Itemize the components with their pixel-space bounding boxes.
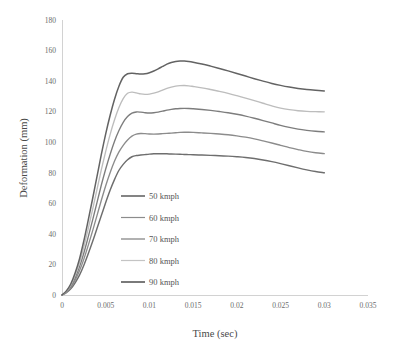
legend-label: 60 kmph — [149, 213, 180, 223]
y-tick-label: 20 — [49, 260, 57, 269]
y-tick-label: 160 — [45, 46, 57, 55]
y-tick-label: 60 — [49, 199, 57, 208]
x-tick-label: 0.03 — [318, 301, 331, 310]
x-tick-label: 0.015 — [185, 301, 202, 310]
x-tick-label: 0 — [60, 301, 64, 310]
chart-canvas: 020406080100120140160180 00.0050.010.015… — [0, 0, 400, 349]
legend-label: 80 kmph — [149, 256, 180, 266]
legend-label: 70 kmph — [149, 234, 180, 244]
x-tick-label: 0.035 — [360, 301, 377, 310]
series-lines — [62, 61, 324, 295]
y-tick-label: 180 — [45, 16, 57, 25]
legend-label: 90 kmph — [149, 277, 180, 287]
legend-label: 50 kmph — [149, 191, 180, 201]
x-tick-label: 0.005 — [97, 301, 114, 310]
series-line-90-kmph — [62, 61, 324, 295]
deformation-vs-time-chart: 020406080100120140160180 00.0050.010.015… — [0, 0, 400, 349]
y-tick-label: 0 — [52, 291, 56, 300]
x-tick-label: 0.025 — [272, 301, 289, 310]
series-line-50-kmph — [62, 154, 324, 295]
y-tick-label: 120 — [45, 107, 57, 116]
y-axis-tick-labels: 020406080100120140160180 — [45, 16, 57, 300]
y-tick-label: 40 — [49, 230, 57, 239]
y-tick-label: 80 — [49, 169, 57, 178]
x-axis-tick-labels: 00.0050.010.0150.020.0250.030.035 — [60, 301, 377, 310]
x-tick-label: 0.02 — [230, 301, 243, 310]
y-axis-title: Deformation (mm) — [18, 118, 30, 198]
chart-legend: 50 kmph60 kmph70 kmph80 kmph90 kmph — [121, 191, 180, 287]
series-line-80-kmph — [62, 86, 324, 295]
y-tick-label: 100 — [45, 138, 57, 147]
x-axis-title: Time (sec) — [193, 328, 238, 340]
y-tick-label: 140 — [45, 77, 57, 86]
x-tick-label: 0.01 — [143, 301, 156, 310]
